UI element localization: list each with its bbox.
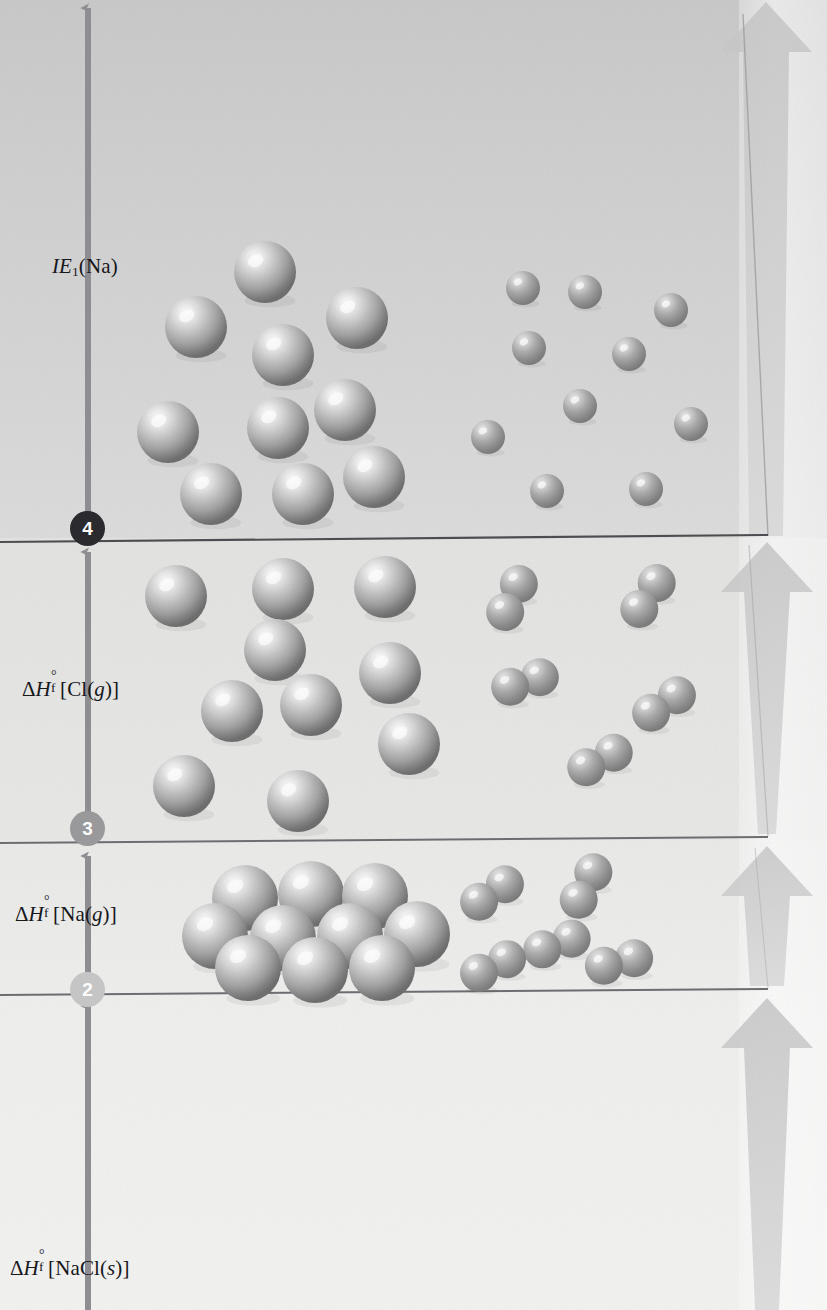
sodium-atom-sphere-t3-3 xyxy=(244,619,306,685)
diagram-vector-layer xyxy=(0,0,827,1310)
step-badge-4: 4 xyxy=(70,511,105,546)
chlorine-atom-sphere-4 xyxy=(612,337,646,373)
sodium-atom-sphere-t3-1 xyxy=(252,558,314,624)
sodium-ion-sphere-4 xyxy=(137,401,199,467)
label-dhf-na-g: ΔH°f[Na(g)] xyxy=(15,900,117,927)
chlorine-molecule-t3-2-atom-a xyxy=(620,590,658,631)
chlorine-molecule-t2-1-atom-a xyxy=(560,881,598,922)
chlorine-molecule-t3-4-atom-a xyxy=(567,748,605,789)
chlorine-molecule-t3-3-atom-a xyxy=(632,694,670,735)
chlorine-atom-sphere-0 xyxy=(506,271,540,307)
chlorine-molecule-t2-2-atom-a xyxy=(523,930,561,971)
sodium-solid-sphere-8 xyxy=(282,937,348,1008)
chlorine-molecule-t2-3-atom-a xyxy=(460,954,498,995)
level-line-3 xyxy=(0,837,768,843)
born-haber-energy-diagram: 4 3 2 IE1(Na) ΔH°f[Cl(g)] ΔH°f[Na(g)] ΔH… xyxy=(0,0,827,1310)
label-dhf-nacl-s: ΔH°f[NaCl(s)] xyxy=(10,1254,130,1281)
sodium-ion-sphere-9 xyxy=(343,446,405,512)
chlorine-molecule-t2-0-atom-a xyxy=(460,883,498,924)
chlorine-molecule-t3-0-atom-a xyxy=(486,593,524,634)
level-line-4 xyxy=(0,535,768,542)
chlorine-atom-sphere-8 xyxy=(530,474,564,510)
sodium-solid-sphere-7 xyxy=(215,935,281,1006)
sodium-atom-sphere-t3-0 xyxy=(145,565,207,631)
chlorine-atom-sphere-5 xyxy=(563,389,597,425)
sodium-ion-sphere-0 xyxy=(234,241,296,307)
sodium-atom-sphere-t3-8 xyxy=(153,755,215,821)
sodium-atom-sphere-t3-2 xyxy=(354,556,416,622)
right-arrow-lower xyxy=(721,998,813,1310)
chlorine-molecule-t3-1-atom-a xyxy=(491,668,529,709)
right-arrow-upper xyxy=(721,542,813,834)
sodium-ion-sphere-1 xyxy=(165,296,227,362)
chlorine-atom-sphere-7 xyxy=(674,407,708,443)
sodium-atom-sphere-t3-4 xyxy=(201,680,263,746)
sodium-ion-sphere-8 xyxy=(272,463,334,529)
step-badge-2-number: 2 xyxy=(82,980,93,999)
sodium-ion-sphere-3 xyxy=(252,324,314,390)
label-ie1-na: IE1(Na) xyxy=(52,254,118,280)
step-badge-3-number: 3 xyxy=(82,819,93,838)
step-badge-4-number: 4 xyxy=(82,519,93,538)
chlorine-atom-sphere-2 xyxy=(654,293,688,329)
sodium-solid-sphere-9 xyxy=(349,935,415,1006)
sodium-ion-sphere-5 xyxy=(247,397,309,463)
sodium-atom-sphere-t3-5 xyxy=(280,674,342,740)
sodium-atom-sphere-t3-9 xyxy=(267,770,329,836)
label-dhf-cl-g: ΔH°f[Cl(g)] xyxy=(22,675,119,702)
particles-layer xyxy=(137,241,708,1008)
sodium-atom-sphere-t3-6 xyxy=(359,642,421,708)
sodium-ion-sphere-2 xyxy=(326,287,388,353)
right-arrow-top xyxy=(720,2,812,536)
step-badge-2: 2 xyxy=(70,972,105,1007)
sodium-atom-sphere-t3-7 xyxy=(378,713,440,779)
sodium-ion-sphere-7 xyxy=(180,463,242,529)
lattice-energy-arrow-group xyxy=(720,2,813,1310)
sodium-ion-sphere-6 xyxy=(314,379,376,445)
chlorine-atom-sphere-6 xyxy=(471,420,505,456)
step-badge-3: 3 xyxy=(70,811,105,846)
chlorine-atom-sphere-1 xyxy=(568,275,602,311)
chlorine-atom-sphere-3 xyxy=(512,331,546,367)
right-arrow-mid xyxy=(721,846,813,986)
chlorine-molecule-t2-4-atom-a xyxy=(585,947,623,988)
chlorine-atom-sphere-9 xyxy=(629,472,663,508)
